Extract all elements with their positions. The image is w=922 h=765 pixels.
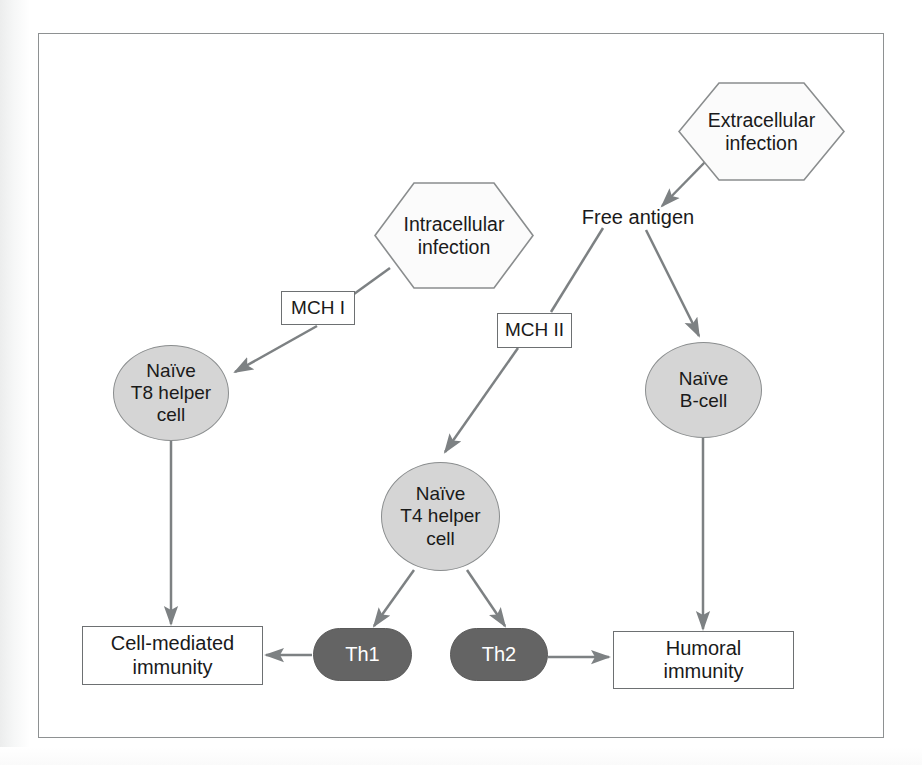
node-naive-t4-helper-cell[interactable]: Naïve T4 helper cell	[381, 462, 500, 571]
scan-shadow-left-edge	[0, 0, 30, 765]
node-label-line-1: Naïve	[400, 483, 480, 505]
figure-page: Extracellular infection Intracellular in…	[0, 0, 922, 765]
node-label-line-3: cell	[131, 404, 211, 426]
node-label: Extracellular infection	[694, 109, 829, 154]
node-label-line-2: B-cell	[679, 390, 729, 412]
node-label-line-2: immunity	[111, 656, 234, 679]
node-label: Cell-mediated immunity	[111, 632, 234, 678]
node-label-line-3: cell	[400, 528, 480, 550]
node-th1[interactable]: Th1	[313, 628, 412, 681]
node-label-line-1: Naïve	[131, 360, 211, 382]
node-label: Humoral immunity	[663, 637, 743, 683]
node-extracellular-infection[interactable]: Extracellular infection	[678, 82, 845, 181]
node-label-line-1: Extracellular	[708, 109, 815, 132]
node-label-line-2: infection	[404, 236, 505, 259]
node-label-line-1: Cell-mediated	[111, 632, 234, 655]
node-cell-mediated-immunity[interactable]: Cell-mediated immunity	[82, 626, 263, 685]
node-label: MCH II	[505, 319, 564, 341]
node-naive-b-cell[interactable]: Naïve B-cell	[645, 342, 762, 438]
node-label: Th2	[482, 643, 516, 666]
node-label-line-2: infection	[708, 132, 815, 155]
node-humoral-immunity[interactable]: Humoral immunity	[613, 631, 794, 689]
node-label: Intracellular infection	[390, 213, 519, 258]
node-label-line-2: T8 helper	[131, 382, 211, 404]
node-label-line-2: immunity	[663, 660, 743, 683]
node-label: Naïve T8 helper cell	[131, 360, 211, 426]
node-th2[interactable]: Th2	[450, 628, 548, 681]
node-free-antigen[interactable]: Free antigen	[573, 205, 703, 231]
node-label: Naïve T4 helper cell	[400, 483, 480, 549]
node-mch-2[interactable]: MCH II	[497, 313, 572, 348]
node-label: Naïve B-cell	[679, 368, 729, 412]
node-label-line-1: Humoral	[663, 637, 743, 660]
node-label: Th1	[345, 643, 379, 666]
node-label-line-2: T4 helper	[400, 505, 480, 527]
scan-shadow-bottom-edge	[0, 747, 922, 765]
node-naive-t8-helper-cell[interactable]: Naïve T8 helper cell	[113, 345, 229, 441]
node-intracellular-infection[interactable]: Intracellular infection	[374, 182, 534, 289]
node-label-line-1: Intracellular	[404, 213, 505, 236]
node-label-line-1: Naïve	[679, 368, 729, 390]
node-label: Free antigen	[582, 206, 694, 229]
node-mch-1[interactable]: MCH I	[281, 291, 355, 325]
node-label: MCH I	[291, 297, 345, 319]
